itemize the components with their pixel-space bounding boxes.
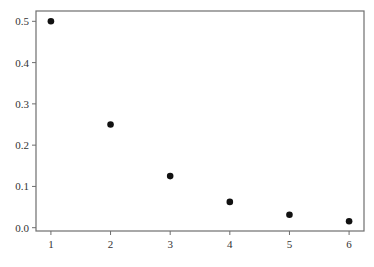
data-points <box>48 18 353 225</box>
y-tick-label: 0.1 <box>15 180 29 192</box>
plot-frame <box>36 11 364 231</box>
x-tick-label: 2 <box>108 238 114 250</box>
x-tick-label: 3 <box>167 238 173 250</box>
y-tick-label: 0.3 <box>15 98 29 110</box>
y-axis: 0.00.10.20.30.40.5 <box>15 15 36 233</box>
data-point <box>346 218 353 225</box>
y-tick-label: 0.5 <box>15 15 29 27</box>
data-point <box>227 199 234 206</box>
x-tick-label: 1 <box>48 238 54 250</box>
x-axis: 123456 <box>48 231 352 250</box>
data-point <box>286 211 293 218</box>
x-tick-label: 4 <box>227 238 233 250</box>
data-point <box>167 173 174 180</box>
x-tick-label: 6 <box>346 238 352 250</box>
y-tick-label: 0.4 <box>15 57 29 69</box>
scatter-chart: 0.00.10.20.30.40.5 123456 <box>0 0 374 267</box>
y-tick-label: 0.2 <box>15 139 29 151</box>
y-tick-label: 0.0 <box>15 222 29 234</box>
data-point <box>107 121 114 128</box>
data-point <box>48 18 55 25</box>
x-tick-label: 5 <box>287 238 293 250</box>
